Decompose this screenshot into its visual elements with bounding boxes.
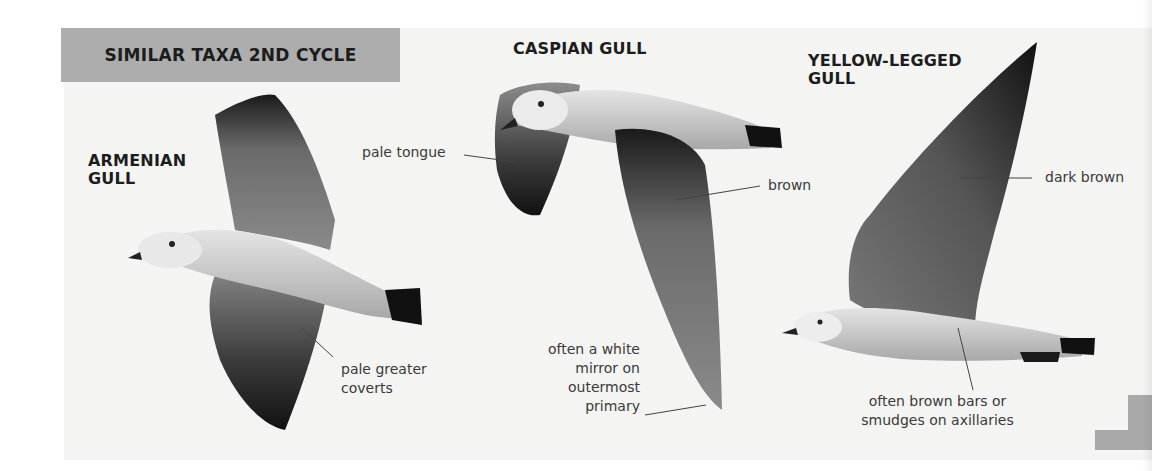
species-title-yellow-legged-gull: YELLOW-LEGGED GULL xyxy=(808,52,962,88)
page: SIMILAR TAXA 2ND CYCLE ARMENIAN GULL CAS… xyxy=(0,0,1152,471)
yellow-legged-gull-image xyxy=(782,42,1095,390)
annotation-pale-tongue: pale tongue xyxy=(362,143,446,162)
annotation-dark-brown: dark brown xyxy=(1045,168,1124,187)
annotation-pale-greater-coverts: pale greater coverts xyxy=(341,360,427,398)
annotation-brown: brown xyxy=(768,176,811,195)
species-title-caspian-gull: CASPIAN GULL xyxy=(513,40,647,58)
section-header: SIMILAR TAXA 2ND CYCLE xyxy=(61,28,400,82)
page-edge-shadow xyxy=(1142,0,1152,471)
species-title-armenian-gull: ARMENIAN GULL xyxy=(88,152,186,188)
annotation-axillaries: often brown bars or smudges on axillarie… xyxy=(850,392,1025,430)
annotation-white-mirror: often a white mirror on outermost primar… xyxy=(510,340,640,416)
section-title: SIMILAR TAXA 2ND CYCLE xyxy=(104,45,356,65)
